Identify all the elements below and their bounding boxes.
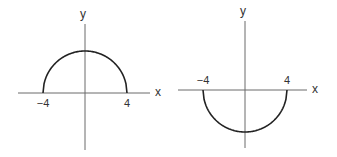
x-axis-label: x <box>155 85 161 99</box>
y-axis-label: y <box>80 7 86 21</box>
right-graph: −4 4 x y <box>178 4 318 148</box>
x-axis-label: x <box>312 82 318 96</box>
x-tick-label-neg: −4 <box>37 97 50 109</box>
figure: −4 4 x y −4 4 x y <box>0 0 337 157</box>
x-tick-label-neg: −4 <box>197 74 210 86</box>
y-axis-label: y <box>240 4 246 18</box>
x-tick-label-pos: 4 <box>284 74 290 86</box>
x-tick-label-pos: 4 <box>124 97 130 109</box>
left-graph: −4 4 x y <box>18 7 161 150</box>
